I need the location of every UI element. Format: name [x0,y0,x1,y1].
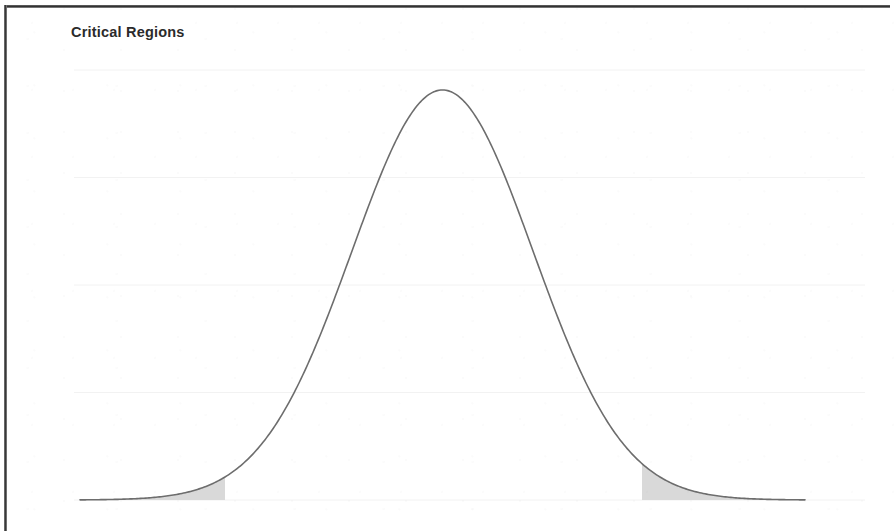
figure-page: Critical Regions [0,0,894,531]
chart-plot-area [0,0,894,531]
upper-critical-region-shading [80,90,805,500]
normal-distribution-curve [80,90,805,500]
chart-gridlines [74,70,865,500]
lower-critical-region-shading [80,90,805,500]
